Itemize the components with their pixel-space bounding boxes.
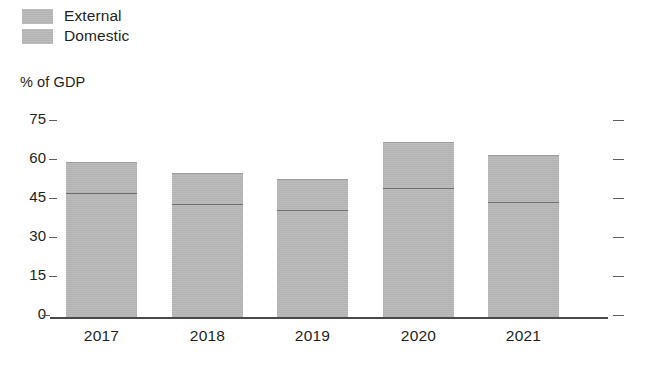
y-tick-label-30: 30 xyxy=(12,228,46,243)
y-tick-label-45: 45 xyxy=(12,189,46,204)
x-tick-label-2018: 2018 xyxy=(172,328,243,344)
bar-2020 xyxy=(383,142,454,318)
bar-2017 xyxy=(66,162,137,318)
bar-2018 xyxy=(172,173,243,318)
x-tick-label-2019: 2019 xyxy=(277,328,348,344)
y-tick-label-75: 75 xyxy=(12,111,46,126)
y-tick-dash-15 xyxy=(49,276,57,277)
bar-divider-2019 xyxy=(277,210,348,211)
y-tick-dash-right-15 xyxy=(613,276,624,277)
x-tick-label-2020: 2020 xyxy=(383,328,454,344)
y-tick-label-0: 0 xyxy=(12,306,46,321)
y-tick-label-15: 15 xyxy=(12,267,46,282)
y-tick-dash-right-30 xyxy=(613,237,624,238)
chart-figure: External Domestic % of GDP 75 60 45 30 1… xyxy=(0,0,647,367)
bar-divider-2017 xyxy=(66,193,137,194)
bar-divider-2021 xyxy=(488,202,559,203)
x-tick-label-2021: 2021 xyxy=(488,328,559,344)
bar-2021 xyxy=(488,155,559,318)
y-tick-dash-right-0 xyxy=(613,315,624,316)
x-tick-label-2017: 2017 xyxy=(66,328,137,344)
y-tick-dash-right-60 xyxy=(613,159,624,160)
y-tick-dash-30 xyxy=(49,237,57,238)
y-tick-dash-right-75 xyxy=(613,120,624,121)
y-tick-dash-right-45 xyxy=(613,198,624,199)
x-axis-line xyxy=(50,317,608,319)
plot-area: 75 60 45 30 15 0 xyxy=(0,0,647,367)
bar-divider-2018 xyxy=(172,204,243,205)
y-tick-dash-60 xyxy=(49,159,57,160)
y-tick-dash-45 xyxy=(49,198,57,199)
y-tick-label-60: 60 xyxy=(12,150,46,165)
y-tick-dash-75 xyxy=(49,120,57,121)
y-tick-dash-0 xyxy=(42,315,50,316)
bar-divider-2020 xyxy=(383,188,454,189)
bar-2019 xyxy=(277,179,348,318)
